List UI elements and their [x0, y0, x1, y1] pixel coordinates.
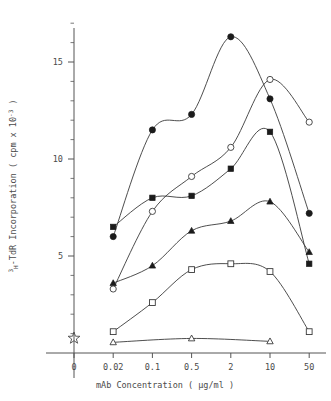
point-open-circle [306, 119, 312, 125]
point-open-square [306, 329, 312, 335]
curve-filled-triangle [113, 201, 309, 283]
point-open-circle [189, 173, 195, 179]
point-filled-circle [110, 234, 116, 240]
y-title-tail: ) [8, 99, 18, 109]
y-axis-title: 3H-TdR Incorporation ( cpm x 10-3 ) [7, 99, 19, 272]
x-axis-title: mAb Concentration ( µg/ml ) [96, 380, 234, 390]
x-tick-label: 0 [71, 362, 76, 372]
x-tick-label: 50 [304, 362, 314, 372]
point-open-triangle [188, 335, 194, 341]
chart-canvas: 51015 00.020.10.521050 mAb Concentration… [0, 0, 331, 401]
curve-filled-square [113, 128, 309, 263]
point-filled-triangle [149, 262, 155, 268]
y-tick-label: 5 [58, 251, 63, 261]
x-tick-label: 0.02 [103, 362, 123, 372]
x-tick-label: 10 [265, 362, 275, 372]
point-open-circle [110, 286, 116, 292]
point-filled-square [111, 224, 116, 229]
y-tick-labels: 51015 [53, 57, 63, 261]
x-tick-label: 2 [228, 362, 233, 372]
svg-text:3H-TdR Incorporation ( cpm x 1: 3H-TdR Incorporation ( cpm x 10-3 ) [7, 99, 19, 272]
point-filled-square [307, 261, 312, 266]
point-open-square [189, 267, 195, 273]
curve-open-square [113, 263, 309, 331]
point-open-square [228, 261, 234, 267]
y-title-main: -TdR Incorporation ( cpm x 10 [8, 117, 18, 265]
point-filled-circle [228, 34, 234, 40]
point-open-square [267, 269, 273, 275]
series-curves [113, 37, 309, 343]
series-markers [110, 34, 312, 345]
point-open-circle [267, 76, 273, 82]
x-tick-label: 0.5 [184, 362, 199, 372]
point-open-square [110, 329, 116, 335]
point-filled-circle [149, 127, 155, 133]
curve-filled-circle [113, 37, 309, 237]
chart-figure: 51015 00.020.10.521050 mAb Concentration… [0, 0, 331, 401]
point-filled-triangle [188, 227, 194, 233]
point-open-circle [228, 144, 234, 150]
point-filled-square [189, 193, 194, 198]
point-filled-square [267, 129, 272, 134]
axes-group [46, 23, 326, 378]
point-filled-square [228, 166, 233, 171]
point-open-circle [149, 208, 155, 214]
point-filled-triangle [228, 218, 234, 224]
point-filled-circle [267, 96, 273, 102]
x-tick-labels: 00.020.10.521050 [71, 362, 314, 372]
point-filled-square [150, 195, 155, 200]
y-tick-label: 10 [53, 154, 63, 164]
point-filled-circle [189, 111, 195, 117]
y-tick-label: 15 [53, 57, 63, 67]
x-tick-label: 0.1 [145, 362, 160, 372]
point-open-square [150, 300, 156, 306]
point-filled-circle [306, 210, 312, 216]
